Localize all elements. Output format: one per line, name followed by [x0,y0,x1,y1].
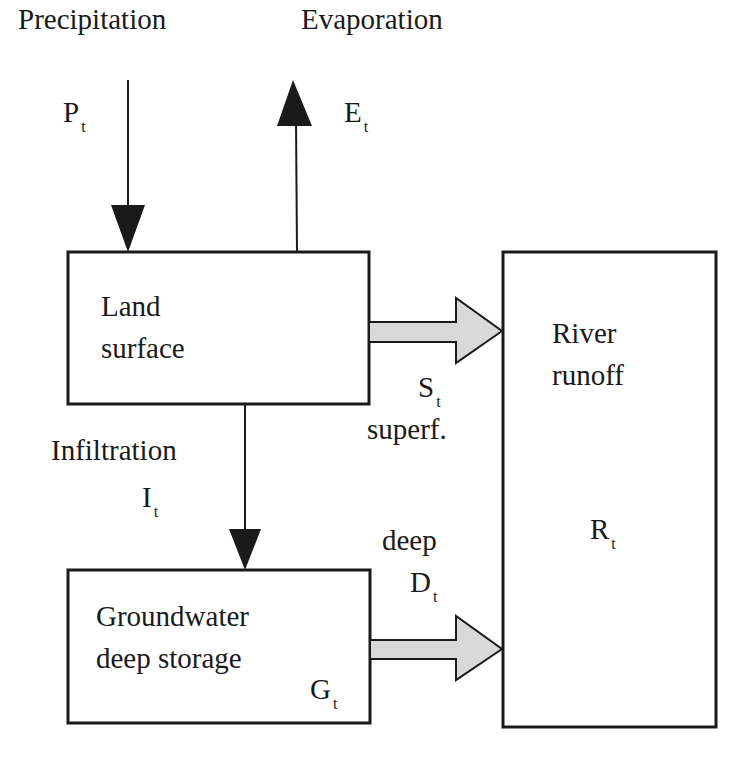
infiltration-symbol-letter: I [142,481,152,513]
river-runoff-label: River runoff [552,312,624,396]
river-runoff-symbol: Rt [590,512,616,561]
infiltration-label: Infiltration [51,433,177,467]
superficial-flow-arrow-icon [369,298,502,363]
groundwater-label-line1: Groundwater [96,595,249,637]
groundwater-symbol-subscript: t [333,695,337,712]
precipitation-arrow-icon [111,80,145,252]
precipitation-symbol-subscript: t [81,118,85,135]
deep-flow-symbol-subscript: t [433,588,437,605]
precipitation-symbol-letter: P [63,96,79,128]
land-surface-label-line2: surface [101,327,185,369]
deep-flow-symbol-letter: D [410,566,431,598]
infiltration-symbol: It [142,480,158,529]
groundwater-label: Groundwater deep storage [96,595,249,679]
evaporation-symbol: Et [344,95,368,144]
infiltration-symbol-subscript: t [154,503,158,520]
precipitation-label: Precipitation [18,2,166,36]
superficial-symbol-letter: S [418,371,434,403]
evaporation-symbol-subscript: t [364,118,368,135]
groundwater-symbol-letter: G [310,673,331,705]
river-runoff-label-line1: River [552,312,624,354]
precipitation-symbol: Pt [63,95,86,144]
deep-flow-label: deep [382,523,437,557]
groundwater-label-line2: deep storage [96,637,249,679]
superficial-symbol-subscript: t [436,393,440,410]
river-runoff-label-line2: runoff [552,354,624,396]
deep-flow-arrow-icon [370,616,502,680]
land-surface-label-line1: Land [101,285,185,327]
groundwater-symbol: Gt [310,672,337,721]
deep-flow-symbol: Dt [410,565,437,614]
superficial-label: superf. [367,412,447,446]
evaporation-symbol-letter: E [344,96,362,128]
evaporation-arrow-icon [277,80,312,252]
land-surface-label: Land surface [101,285,185,369]
river-runoff-symbol-subscript: t [611,535,615,552]
infiltration-arrow-icon [229,404,261,570]
river-runoff-symbol-letter: R [590,513,609,545]
evaporation-label: Evaporation [301,2,443,36]
